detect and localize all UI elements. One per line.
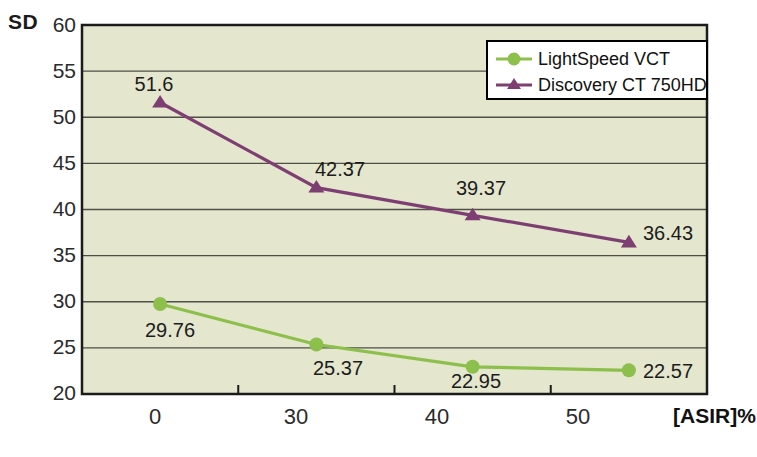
data-label-purple: 51.6 [135,73,174,96]
x-axis-title: [ASIR]% [673,404,756,428]
data-label-purple: 42.37 [315,158,365,181]
circle-marker-icon [622,363,636,377]
legend-item-discovery-ct-750hd[interactable]: Discovery CT 750HD [496,72,698,98]
data-label-green: 25.37 [313,357,363,380]
data-label-purple: 39.37 [456,177,506,200]
x-tick-label: 40 [425,404,449,430]
legend-label: LightSpeed VCT [538,50,670,68]
y-tick-label: 20 [32,382,76,403]
chart-legend: LightSpeed VCT Discovery CT 750HD [486,40,708,100]
circle-marker-icon [309,337,323,351]
circle-marker-icon [153,297,167,311]
y-axis-tick-labels: 60 55 50 45 40 35 30 25 20 [20,0,76,457]
triangle-marker-icon [496,76,532,94]
x-tick-label: 30 [284,404,308,430]
legend-item-lightspeed-vct[interactable]: LightSpeed VCT [496,46,698,72]
y-tick-label: 35 [32,244,76,265]
line-chart: SD 60 55 50 45 40 35 30 25 20 0 30 40 50… [0,0,757,457]
legend-label: Discovery CT 750HD [538,76,707,94]
data-label-green: 22.95 [451,370,501,393]
y-tick-label: 60 [32,14,76,35]
y-tick-label: 25 [32,336,76,357]
y-tick-label: 50 [32,106,76,127]
y-tick-label: 55 [32,60,76,81]
data-label-purple: 36.43 [643,222,693,245]
x-tick-label: 0 [149,404,161,430]
y-tick-label: 45 [32,152,76,173]
data-label-green: 29.76 [145,319,195,342]
x-tick-label: 50 [566,404,590,430]
data-label-green: 22.57 [643,360,693,383]
y-tick-label: 30 [32,290,76,311]
circle-marker-icon [496,50,532,68]
y-tick-label: 40 [32,198,76,219]
